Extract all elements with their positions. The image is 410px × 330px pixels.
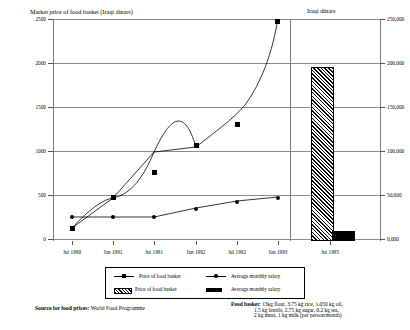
left-axis-tick [48,239,53,240]
line-price-of-food-basket-upper [196,24,277,147]
data-point-salary [276,196,280,200]
right-axis-label: 150,000 [387,104,404,110]
data-point-basket [194,143,199,148]
right-axis-label: 100,000 [387,148,404,154]
source-note-value: World Food Programme [91,305,145,311]
legend: Price of food basket Average monthly sal… [105,267,305,299]
left-axis-tick [48,19,53,20]
line-price-of-food-basket [72,121,196,228]
data-point-basket [275,19,280,24]
x-axis-tick [113,241,114,245]
x-axis-label: Jan 1991 [93,249,133,255]
chart-figure: Market price of food basket (Iraqi dinar… [0,0,410,330]
x-axis-label: Jan 1992 [176,249,216,255]
x-axis-label: Jan 1993 [258,249,298,255]
right-axis-label: 250,000 [387,16,404,22]
line-price-of-food-basket-b [72,147,196,228]
data-point-basket [235,122,240,127]
left-axis-tick [48,195,53,196]
legend-label-line-basket: Price of food basket [139,273,181,279]
right-axis-title: Iraqi dinars [307,7,335,14]
bar-average-monthly-salary [332,231,355,241]
left-axis-line [53,19,54,241]
right-axis-label: 0,000 [387,236,399,242]
left-axis-tick [48,151,53,152]
right-axis-tick [380,19,385,20]
x-axis-tick [154,241,155,245]
left-axis-label: 1500 [20,104,46,110]
left-axis-label: 2000 [20,60,46,66]
x-axis-tick [196,241,197,245]
legend-label-line-salary: Average monthly salary [231,273,280,279]
data-point-salary [152,215,156,219]
left-axis-label: 0 [20,236,46,242]
data-point-basket [70,226,75,231]
data-point-salary [194,207,198,211]
left-axis-label: 500 [20,192,46,198]
right-axis-tick [380,63,385,64]
source-note: Source for food prices: World Food Progr… [35,305,145,311]
gridline [53,19,380,20]
left-axis-tick [48,107,53,108]
legend-solid-swatch [206,288,222,292]
right-axis-line [380,19,381,241]
data-point-salary [70,215,74,219]
bar-price-of-food-basket [311,67,334,241]
right-axis-tick [380,195,385,196]
x-axis-label: Jul 1992 [217,249,257,255]
food-basket-note: Food basket: 13kg flour, 3.75 kg rice, 1… [231,302,343,319]
legend-label-bar-salary: Average monthly salary [231,286,280,292]
left-axis-tick [48,63,53,64]
source-note-label: Source for food prices: [35,305,89,311]
x-axis-tick [278,241,279,245]
x-axis-tick [237,241,238,245]
data-point-salary [111,215,115,219]
x-axis-tick [72,241,73,245]
gridline [53,63,380,64]
right-axis-tick [380,239,385,240]
x-axis-tick [330,241,331,245]
left-axis-label: 2500 [20,16,46,22]
legend-circle-marker [214,274,218,278]
right-axis-tick [380,107,385,108]
data-point-basket [111,195,116,200]
right-axis-tick [380,151,385,152]
panel-divider-line [290,19,291,241]
x-axis-label: Jul 1995 [310,249,350,255]
legend-square-marker [122,274,126,278]
right-axis-label: 200,000 [387,60,404,66]
left-axis-title: Market price of food basket (Iraqi dinar… [30,8,133,15]
line-average-monthly-salary [72,197,278,217]
data-point-basket [152,170,157,175]
legend-hatched-swatch [114,288,132,294]
x-axis-label: Jul 1990 [52,249,92,255]
legend-label-bar-basket: Price of food basket [135,286,177,292]
left-axis-label: 1000 [20,148,46,154]
x-axis-label: Jul 1991 [134,249,174,255]
data-point-salary [235,200,239,204]
food-basket-note-line3: 2 kg meat, 1 kg milk (per person/month) [231,313,343,319]
right-axis-label: 50,000 [387,192,402,198]
